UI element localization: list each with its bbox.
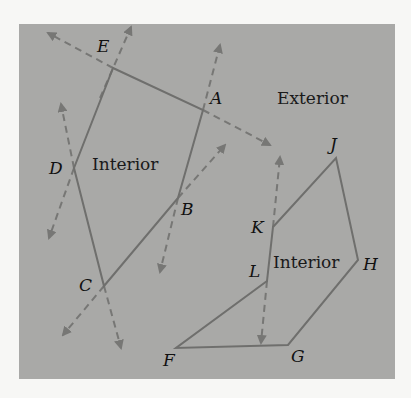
vertex-label-d: D xyxy=(48,158,63,178)
exterior-label: Exterior xyxy=(277,88,349,108)
vertex-label-b: B xyxy=(180,199,194,219)
vertex-label-h: H xyxy=(362,254,379,274)
vertex-label-f: F xyxy=(162,350,176,370)
interior-label-left: Interior xyxy=(92,154,159,174)
vertex-label-e: E xyxy=(96,36,110,56)
vertex-label-c: C xyxy=(79,275,92,295)
vertex-label-k: K xyxy=(250,217,265,237)
vertex-label-a: A xyxy=(208,88,222,108)
interior-label-right: Interior xyxy=(273,252,340,272)
polygon-diagram: E A B C D J H G F L K Interior Exterior … xyxy=(0,0,411,398)
vertex-label-g: G xyxy=(291,346,305,366)
vertex-label-l: L xyxy=(248,261,260,281)
